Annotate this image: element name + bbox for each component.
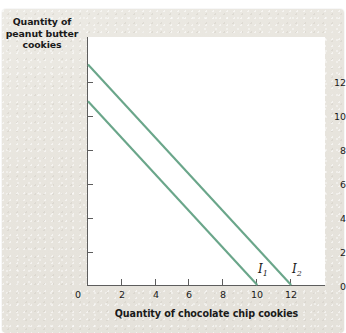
y-tick-label-10: 10	[270, 111, 346, 122]
curve-label-i2-sub: 2	[297, 269, 302, 278]
x-tick-label-6: 6	[174, 289, 204, 300]
x-tick-4	[155, 279, 156, 285]
x-tick-label-10: 10	[242, 289, 272, 300]
y-tick-label-12: 12	[270, 77, 346, 88]
x-tick-12	[290, 279, 291, 285]
y-tick-4	[88, 218, 93, 219]
y-tick-10	[88, 116, 93, 117]
x-tick-label-12: 12	[276, 289, 306, 300]
y-tick-8	[88, 150, 93, 151]
y-tick-label-2: 2	[270, 247, 346, 258]
curve-label-i1: I1	[258, 262, 268, 278]
curve-label-i1-sub: 1	[263, 269, 268, 278]
y-axis-title: Quantity of peanut butter cookies	[2, 16, 82, 51]
x-tick-6	[188, 279, 189, 285]
y-tick-6	[88, 184, 93, 185]
x-tick-2	[121, 279, 122, 285]
x-tick-label-8: 8	[208, 289, 238, 300]
y-axis-line	[87, 37, 88, 286]
x-tick-8	[222, 279, 223, 285]
indifference-curve-chart: Quantity of peanut butter cookies Quanti…	[0, 0, 346, 333]
y-tick-label-4: 4	[270, 213, 346, 224]
y-tick-12	[88, 82, 93, 83]
curve-label-i2: I2	[292, 262, 302, 278]
y-tick-label-6: 6	[270, 179, 346, 190]
x-axis-title: Quantity of chocolate chip cookies	[88, 308, 325, 319]
y-tick-2	[88, 252, 93, 253]
x-tick-10	[256, 279, 257, 285]
x-tick-label-0: 0	[63, 289, 93, 300]
x-tick-label-2: 2	[107, 289, 137, 300]
x-tick-label-4: 4	[141, 289, 171, 300]
y-tick-label-8: 8	[270, 145, 346, 156]
